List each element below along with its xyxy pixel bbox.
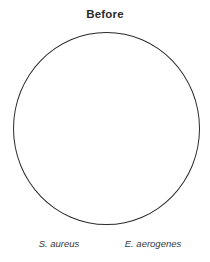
diagram-canvas: Before S. aureus E. aerogenes <box>0 0 210 262</box>
diagram-title: Before <box>0 8 210 20</box>
species-label-e-aerogenes: E. aerogenes <box>125 238 182 249</box>
species-label-s-aureus: S. aureus <box>39 238 80 249</box>
empty-circle-outline <box>13 32 200 225</box>
